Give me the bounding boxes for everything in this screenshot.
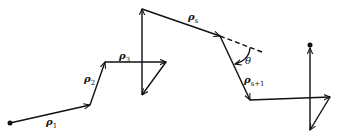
label-rho3: ρ3 xyxy=(119,51,130,64)
bond-8 xyxy=(250,97,330,100)
label-rhos: ρs xyxy=(188,12,198,25)
start-dot xyxy=(8,121,13,126)
bond-rhos xyxy=(142,9,220,36)
bond-4 xyxy=(142,62,166,95)
label-rhos1: ρs+1 xyxy=(244,75,265,88)
bond-9 xyxy=(310,97,330,130)
label-theta: θ xyxy=(245,56,251,66)
label-rho2: ρ2 xyxy=(84,74,95,87)
end-dot xyxy=(308,43,313,48)
label-rho1: ρ1 xyxy=(46,117,57,130)
